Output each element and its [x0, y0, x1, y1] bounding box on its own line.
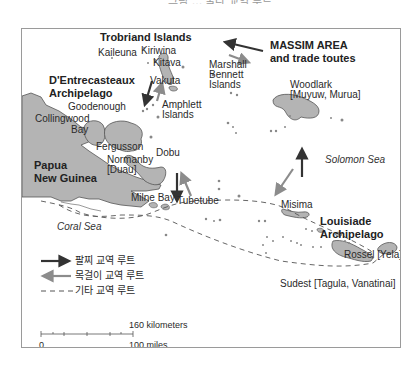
label-coral-sea: Coral Sea [57, 221, 101, 232]
label-collingwood: Collingwood [35, 113, 89, 124]
legend-other-route: 기타 교역 루트 [75, 285, 135, 296]
label-amphlett-islands: Islands [162, 109, 194, 120]
label-sudest: Sudest [Tagula, Vanatinai] [280, 278, 395, 289]
label-kiriwina: Kiriwina [141, 45, 176, 56]
label-massim-area: MASSIM AREA [270, 39, 348, 51]
label-fergusson: Fergusson [96, 141, 143, 152]
label-solomon-sea: Solomon Sea [325, 154, 385, 165]
legend-bracelet-route: 팔찌 교역 루트 [75, 255, 135, 266]
label-woodlark-alt: [Muyuw, Murua] [290, 89, 361, 100]
label-misima: Misima [281, 199, 313, 210]
label-rossel: Rossel [Yela] [344, 249, 401, 260]
scale-miles-label: 100 miles [129, 340, 168, 348]
scale-bar [41, 331, 133, 337]
label-normanby-alt: [Duau] [107, 164, 136, 175]
label-louisiade: Louisiade [320, 215, 371, 227]
label-new-guinea: New Guinea [34, 172, 97, 184]
label-papua: Papua [34, 159, 67, 171]
label-dobu: Dobu [156, 147, 180, 158]
label-trade-routes-subtitle: and trade toutes [270, 52, 356, 64]
label-vakuta: Vakuta [150, 75, 180, 86]
label-kitava: Kitava [153, 57, 181, 68]
label-kaileuna: Kaileuna [98, 47, 137, 58]
label-collingwood-bay: Bay [71, 124, 88, 135]
label-milne-bay: Milne Bay [131, 192, 175, 203]
label-trobriand-islands: Trobriand Islands [100, 31, 192, 43]
map-frame: Trobriand Islands Kaileuna Kiriwina Kita… [21, 28, 401, 348]
scale-zero-label: 0 [39, 340, 44, 348]
label-dentrecasteaux-archipelago: Archipelago [49, 87, 113, 99]
label-marshall-islands: Islands [209, 79, 241, 90]
label-goodenough: Goodenough [68, 101, 126, 112]
legend-necklace-route: 목걸이 교역 루트 [75, 270, 144, 281]
figure-title-cropped: 그림 … 쿨라 교역 루트 [140, 0, 300, 4]
scale-km-label: 160 kilometers [129, 320, 188, 331]
label-louisiade-archipelago: Archipelago [320, 228, 384, 240]
legend-symbols [41, 261, 73, 291]
figure-title: 그림 … 쿨라 교역 루트 [140, 0, 300, 4]
label-tubetube: Tubetube [177, 195, 219, 206]
label-dentrecasteaux: D'Entrecasteaux [49, 74, 135, 86]
